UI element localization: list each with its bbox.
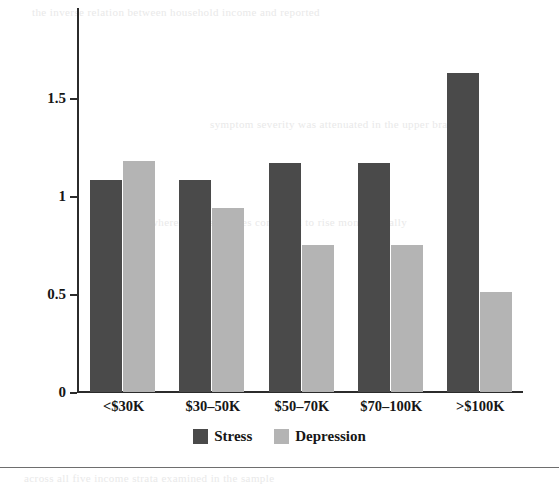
bar-stress-1 xyxy=(90,180,122,392)
bar-stress-4 xyxy=(358,163,390,392)
y-tick-label: 0.5 xyxy=(2,286,66,303)
legend-entry-depression: Depression xyxy=(274,428,366,445)
x-category-label: >$100K xyxy=(436,398,525,415)
legend-swatch-icon xyxy=(193,429,208,444)
bar-stress-3 xyxy=(269,163,301,392)
y-tick-label: 0 xyxy=(2,384,66,401)
bar-depression-1 xyxy=(123,161,155,392)
y-tick-label: 1 xyxy=(2,188,66,205)
x-category-label: $50–70K xyxy=(257,398,346,415)
y-tick-mark xyxy=(70,196,77,198)
y-tick-mark xyxy=(70,392,77,394)
y-tick-mark xyxy=(70,98,77,100)
x-category-label: <$30K xyxy=(79,398,168,415)
y-tick-label-wrap: 1 xyxy=(0,188,66,204)
legend-swatch-icon xyxy=(274,429,289,444)
bar-depression-2 xyxy=(212,208,244,392)
bar-stress-2 xyxy=(179,180,211,392)
y-tick-label-wrap: 0.5 xyxy=(0,286,66,302)
y-tick-label: 1.5 xyxy=(2,90,66,107)
y-axis-line xyxy=(77,8,79,393)
bar-stress-5 xyxy=(447,73,479,392)
legend-label: Depression xyxy=(295,428,366,445)
bar-depression-5 xyxy=(480,292,512,392)
y-tick-label-wrap: 0 xyxy=(0,384,66,400)
bar-depression-3 xyxy=(302,245,334,392)
legend-label: Stress xyxy=(214,428,252,445)
legend-entry-stress: Stress xyxy=(193,428,252,445)
y-tick-mark xyxy=(70,294,77,296)
y-tick-label-wrap: 1.5 xyxy=(0,90,66,106)
bar-depression-4 xyxy=(391,245,423,392)
x-category-label: $30–50K xyxy=(168,398,257,415)
chart-legend: StressDepression xyxy=(0,428,559,445)
x-category-label: $70–100K xyxy=(347,398,436,415)
footer-rule xyxy=(0,467,559,468)
